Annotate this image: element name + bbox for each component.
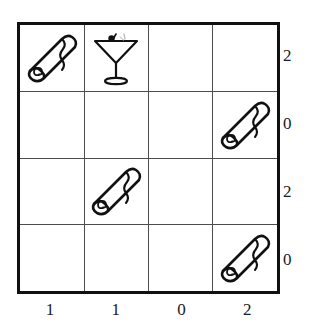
grid-cell-r2c4[interactable]: [213, 92, 277, 159]
grid-cell-r1c3[interactable]: [148, 25, 212, 92]
column-clue-4: 2: [214, 297, 280, 325]
grid-cell-r3c2[interactable]: [84, 158, 148, 225]
towel-icon: [215, 231, 275, 285]
puzzle-root: 2 0 2 0 1 1 0 2: [0, 0, 314, 334]
row-clue-2: 0: [283, 90, 311, 158]
olive-garnish: [109, 35, 115, 41]
grid-cell-r3c4[interactable]: [213, 158, 277, 225]
grid-row: [20, 225, 277, 292]
row-clue-1: 2: [283, 22, 311, 90]
column-clues: 1 1 0 2: [17, 297, 280, 325]
grid-row: [20, 92, 277, 159]
grid-row: [20, 25, 277, 92]
column-clue-1: 1: [17, 297, 83, 325]
grid-body: [20, 25, 277, 291]
grid-cell-r4c1[interactable]: [20, 225, 84, 292]
grid-cell-r1c4[interactable]: [213, 25, 277, 92]
grid-cell-r2c2[interactable]: [84, 92, 148, 159]
row-clues: 2 0 2 0: [283, 22, 311, 294]
grid-cell-r1c1[interactable]: [20, 25, 84, 92]
grid-cell-r4c2[interactable]: [84, 225, 148, 292]
puzzle-grid: [17, 22, 280, 294]
column-clue-2: 1: [83, 297, 149, 325]
row-clue-3: 2: [283, 158, 311, 226]
grid-cell-r4c3[interactable]: [148, 225, 212, 292]
grid-table: [20, 25, 277, 291]
grid-cell-r1c2[interactable]: [84, 25, 148, 92]
towel-icon: [86, 164, 146, 218]
cocktail-icon: [90, 28, 142, 88]
towel-icon: [215, 98, 275, 152]
grid-cell-r3c1[interactable]: [20, 158, 84, 225]
grid-cell-r3c3[interactable]: [148, 158, 212, 225]
towel-icon: [22, 31, 82, 85]
grid-cell-r2c1[interactable]: [20, 92, 84, 159]
row-clue-4: 0: [283, 226, 311, 294]
grid-cell-r4c4[interactable]: [213, 225, 277, 292]
column-clue-3: 0: [149, 297, 215, 325]
grid-row: [20, 158, 277, 225]
grid-cell-r2c3[interactable]: [148, 92, 212, 159]
